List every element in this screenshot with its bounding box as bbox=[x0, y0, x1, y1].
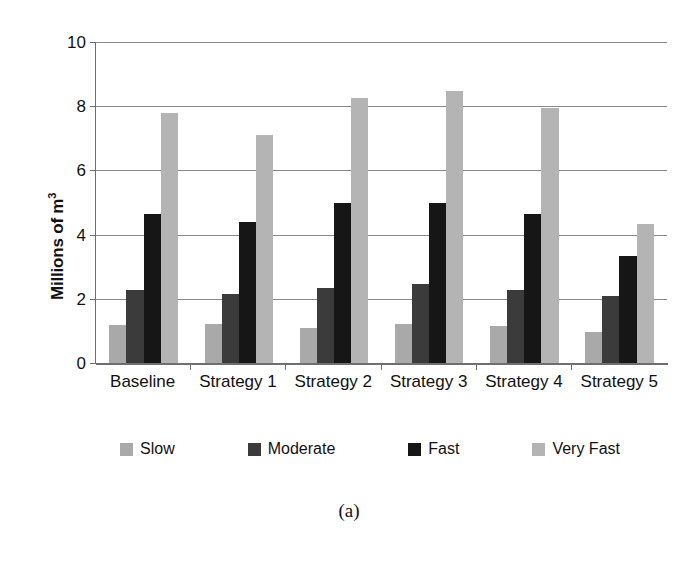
bar[interactable] bbox=[144, 214, 161, 363]
bar[interactable] bbox=[351, 98, 368, 363]
bar[interactable] bbox=[585, 332, 602, 363]
bar[interactable] bbox=[300, 328, 317, 363]
bar[interactable] bbox=[429, 203, 446, 364]
bar[interactable] bbox=[602, 296, 619, 363]
bar[interactable] bbox=[256, 135, 273, 363]
y-axis-title-exponent: 3 bbox=[46, 193, 58, 199]
x-axis-line bbox=[96, 363, 668, 365]
y-tick-label-8: 8 bbox=[54, 98, 86, 115]
y-tick-label-0: 0 bbox=[54, 355, 86, 372]
bar-groups bbox=[96, 42, 667, 363]
legend-swatch-icon bbox=[408, 443, 421, 456]
bar[interactable] bbox=[239, 222, 256, 363]
bar-group bbox=[477, 42, 572, 363]
legend-item[interactable]: Very Fast bbox=[532, 440, 620, 458]
bar-group-bars bbox=[205, 42, 274, 363]
bar[interactable] bbox=[619, 256, 636, 363]
x-axis-labels: BaselineStrategy 1Strategy 2Strategy 3St… bbox=[95, 372, 667, 392]
x-axis-label: Strategy 1 bbox=[190, 372, 285, 392]
bar[interactable] bbox=[395, 324, 412, 363]
legend-label: Slow bbox=[140, 440, 175, 458]
bar-group-bars bbox=[490, 42, 559, 363]
bar-group-bars bbox=[300, 42, 369, 363]
x-axis-label: Baseline bbox=[95, 372, 190, 392]
y-tick-label-10: 10 bbox=[54, 34, 86, 51]
legend-item[interactable]: Slow bbox=[120, 440, 175, 458]
bar-group bbox=[382, 42, 477, 363]
bar[interactable] bbox=[161, 113, 178, 363]
bar[interactable] bbox=[126, 290, 143, 363]
legend-item[interactable]: Moderate bbox=[248, 440, 336, 458]
bar-group bbox=[191, 42, 286, 363]
y-axis-title-text: Millions of m bbox=[48, 199, 67, 300]
bar-group bbox=[572, 42, 667, 363]
legend-swatch-icon bbox=[120, 443, 133, 456]
legend-label: Moderate bbox=[268, 440, 336, 458]
bar[interactable] bbox=[524, 214, 541, 363]
legend: SlowModerateFastVery Fast bbox=[95, 440, 635, 458]
figure-panel-a: Millions of m3 0246810 BaselineStrategy … bbox=[0, 0, 698, 563]
legend-label: Fast bbox=[428, 440, 459, 458]
bar[interactable] bbox=[541, 108, 558, 363]
legend-label: Very Fast bbox=[552, 440, 620, 458]
bar[interactable] bbox=[317, 288, 334, 363]
y-tick-label-4: 4 bbox=[54, 227, 86, 244]
plot-area: 0246810 bbox=[95, 42, 667, 363]
y-tick-label-6: 6 bbox=[54, 162, 86, 179]
y-tick-label-2: 2 bbox=[54, 291, 86, 308]
x-axis-label: Strategy 3 bbox=[381, 372, 476, 392]
bar[interactable] bbox=[507, 290, 524, 363]
legend-item[interactable]: Fast bbox=[408, 440, 459, 458]
bar-group-bars bbox=[585, 42, 654, 363]
legend-swatch-icon bbox=[532, 443, 545, 456]
bar[interactable] bbox=[109, 325, 126, 363]
x-axis-label: Strategy 4 bbox=[476, 372, 571, 392]
bar[interactable] bbox=[637, 224, 654, 363]
x-axis-label: Strategy 5 bbox=[572, 372, 667, 392]
bar[interactable] bbox=[334, 203, 351, 364]
bar[interactable] bbox=[446, 91, 463, 363]
bar-group-bars bbox=[395, 42, 464, 363]
bar[interactable] bbox=[222, 294, 239, 363]
figure-caption: (a) bbox=[0, 500, 698, 522]
bar[interactable] bbox=[412, 284, 429, 363]
bar-group-bars bbox=[109, 42, 178, 363]
bar[interactable] bbox=[490, 326, 507, 363]
bar-group bbox=[286, 42, 381, 363]
bar[interactable] bbox=[205, 324, 222, 363]
legend-swatch-icon bbox=[248, 443, 261, 456]
x-axis-label: Strategy 2 bbox=[286, 372, 381, 392]
bar-group bbox=[96, 42, 191, 363]
